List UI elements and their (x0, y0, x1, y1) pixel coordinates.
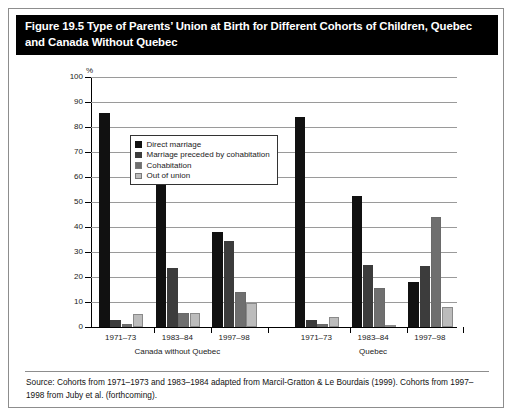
bar (190, 313, 201, 328)
bar (235, 292, 246, 328)
x-axis-category-label: 1971–73 (97, 333, 145, 342)
source-separator (25, 371, 489, 372)
bar (212, 232, 223, 327)
figure-title: Figure 19.5 Type of Parents’ Union at Bi… (25, 19, 491, 50)
bar (178, 313, 189, 328)
bar (246, 303, 257, 327)
legend-label: Out of union (147, 171, 191, 180)
bar (133, 314, 144, 327)
bar (329, 317, 340, 328)
bar (295, 117, 306, 327)
y-axis-label: 10 (61, 297, 83, 306)
bar (122, 324, 133, 327)
y-axis-label: 90 (61, 97, 83, 106)
bar (99, 113, 110, 327)
x-axis-category-label: 1983–84 (349, 333, 397, 342)
bar (317, 324, 328, 327)
bar (156, 176, 167, 327)
legend-item: Marriage preceded by cohabitation (135, 150, 270, 161)
y-axis-label: 30 (61, 247, 83, 256)
x-axis-category-label: 1983–84 (153, 333, 201, 342)
y-axis-label: 50 (61, 197, 83, 206)
y-axis-tick (85, 327, 91, 328)
x-axis-category-label: 1997–98 (210, 333, 258, 342)
y-axis-label: 60 (61, 172, 83, 181)
legend-swatch-cohabitation (135, 162, 142, 169)
legend-item: Out of union (135, 171, 270, 182)
bar (374, 288, 385, 327)
bar (224, 241, 235, 327)
bar (442, 307, 453, 327)
legend-swatch-direct-marriage (135, 141, 142, 148)
figure-title-bar: Figure 19.5 Type of Parents’ Union at Bi… (16, 15, 498, 55)
x-axis-category-label: 1997–98 (406, 333, 454, 342)
x-axis-group-label: Quebec (313, 347, 433, 356)
legend-swatch-marriage-preceded-by-cohabitation (135, 152, 142, 159)
bar (408, 282, 419, 327)
y-axis-label: 100 (61, 72, 83, 81)
legend-label: Direct marriage (147, 140, 202, 149)
chart-legend: Direct marriage Marriage preceded by coh… (130, 135, 278, 185)
plot-frame: 0102030405060708090100 (91, 77, 457, 327)
x-axis-line (91, 327, 457, 328)
legend-swatch-out-of-union (135, 173, 142, 180)
bar (431, 217, 442, 327)
y-axis-label: 20 (61, 272, 83, 281)
bar (352, 196, 363, 327)
bar (110, 320, 121, 327)
y-axis-label: 0 (61, 322, 83, 331)
bar (420, 266, 431, 327)
bar (385, 325, 396, 328)
legend-label: Cohabitation (147, 161, 192, 170)
x-axis-tick (268, 327, 269, 333)
legend-item: Direct marriage (135, 139, 270, 150)
source-note: Source: Cohorts from 1971–1973 and 1983–… (26, 376, 490, 401)
y-axis-label: 40 (61, 222, 83, 231)
x-axis-category-label: 1971–73 (292, 333, 340, 342)
bars-layer (91, 77, 457, 327)
chart-area: % 0102030405060708090100 1971–731983–841… (9, 59, 505, 369)
x-axis-group-label: Canada without Quebec (117, 347, 237, 356)
figure-container: Figure 19.5 Type of Parents’ Union at Bi… (8, 8, 504, 408)
legend-label: Marriage preceded by cohabitation (147, 150, 270, 159)
x-axis-tick (463, 327, 464, 333)
y-axis-label: 70 (61, 147, 83, 156)
bar (167, 268, 178, 327)
y-axis-unit-label: % (86, 66, 93, 75)
bar (363, 265, 374, 328)
y-axis-label: 80 (61, 122, 83, 131)
legend-item: Cohabitation (135, 160, 270, 171)
bar (306, 320, 317, 328)
